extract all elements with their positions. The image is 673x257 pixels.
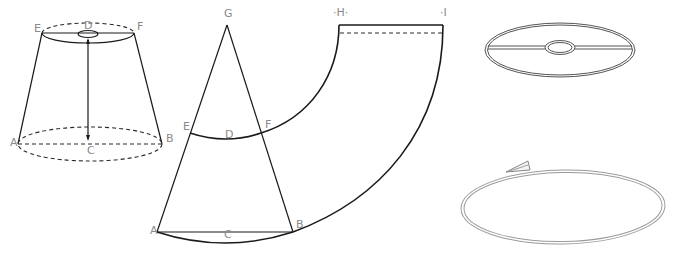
label-B: B [166, 132, 174, 145]
arc-outer-BI [293, 25, 443, 232]
side-right [134, 33, 162, 144]
bottom-ring-outer [460, 168, 665, 246]
label-I: ·I [440, 6, 447, 19]
arc-inner-FH [261, 25, 339, 133]
label-D: D [225, 128, 233, 141]
top-ring-outer-inner [488, 25, 633, 75]
label-H: ·H· [333, 6, 348, 19]
bottom-ring-inner [463, 171, 662, 243]
label-E: E [34, 22, 41, 35]
top-ring-panel [485, 23, 635, 77]
label-D: D [84, 19, 92, 32]
label-A: A [150, 224, 158, 237]
label-F: F [265, 118, 271, 131]
label-C: C [224, 228, 232, 241]
arrow-head-up-icon [86, 38, 90, 44]
lampshade-3d-panel: E D F A C B [10, 19, 174, 161]
pattern-development-panel: G E D F A C B ·H· ·I [150, 6, 447, 243]
arrow-head-down-icon [86, 135, 90, 141]
label-B: B [296, 218, 304, 231]
label-G: G [224, 7, 233, 20]
lampshade-diagram: E D F A C B G E D F A C B ·H· ·I [0, 0, 673, 257]
cone-edge-right [227, 25, 293, 232]
side-left [18, 33, 42, 144]
top-ring-outer [485, 23, 635, 77]
ring-clamp-icon [506, 161, 530, 172]
washer-inner [548, 43, 572, 53]
label-A: A [10, 136, 18, 149]
label-E: E [183, 120, 190, 133]
bottom-ring-panel [460, 161, 665, 246]
label-C: C [87, 144, 95, 157]
label-F: F [137, 20, 143, 33]
cone-edge-left [157, 25, 227, 232]
